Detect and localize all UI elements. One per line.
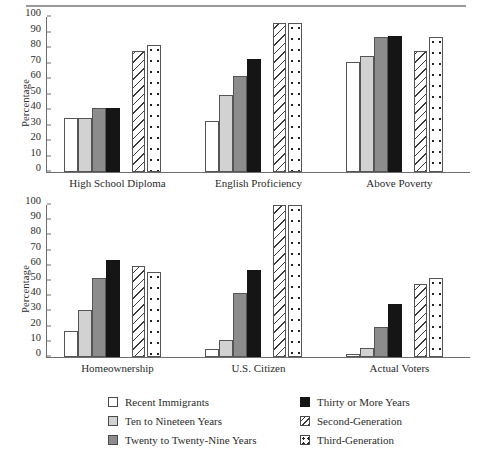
- y-axis-tick-label: 40: [31, 101, 42, 112]
- x-axis-category-label: Actual Voters: [370, 362, 430, 374]
- bar: [92, 108, 106, 172]
- y-axis-tick: 40: [7, 109, 47, 110]
- y-axis-tick-label: 80: [31, 39, 42, 50]
- legend-item[interactable]: Thirty or More Years: [300, 392, 410, 411]
- y-axis-tick-label: 90: [31, 23, 42, 34]
- y-axis-tick-label: 0: [36, 348, 41, 359]
- y-axis-tick: 0: [7, 356, 47, 357]
- y-axis-tick: 20: [7, 325, 47, 326]
- y-axis-tick-label: 50: [31, 85, 42, 96]
- bar: [346, 62, 360, 172]
- bar-group-bars: [329, 205, 470, 357]
- y-axis-tick: 10: [7, 155, 47, 156]
- bar: [106, 260, 120, 357]
- x-axis-category-label: English Proficiency: [215, 177, 302, 189]
- y-axis-tick-label: 80: [31, 226, 42, 237]
- bar: [219, 340, 233, 357]
- bar: [374, 37, 388, 172]
- legend-item-label: Second-Generation: [317, 415, 402, 427]
- y-axis-tick: 30: [7, 124, 47, 125]
- y-axis-tick-label: 30: [31, 116, 42, 127]
- x-axis-category-label: High School Diploma: [69, 177, 166, 189]
- y-axis-tick: 10: [7, 340, 47, 341]
- bar-group: U.S. Citizen: [188, 205, 329, 357]
- y-axis-label-bottom: Percentage: [20, 265, 31, 313]
- y-axis-tick-label: 10: [31, 147, 42, 158]
- y-axis-tick: 50: [7, 280, 47, 281]
- y-axis-tick: 100: [7, 16, 47, 17]
- bar: [64, 118, 78, 172]
- y-axis-tick-label: 40: [31, 287, 42, 298]
- legend-item[interactable]: Recent Immigrants: [108, 392, 256, 411]
- legend-item-label: Recent Immigrants: [125, 396, 209, 408]
- chart-panel-top: Percentage 0102030405060708090100High Sc…: [0, 10, 482, 195]
- figure-root: Percentage 0102030405060708090100High Sc…: [0, 0, 482, 462]
- bar-group: English Proficiency: [188, 17, 329, 172]
- legend-column-right: Thirty or More YearsSecond-GenerationThi…: [300, 392, 410, 449]
- bar: [374, 327, 388, 357]
- bar: [288, 23, 302, 172]
- bar-group-bars: [188, 17, 329, 172]
- chart-panel-bottom: Percentage 0102030405060708090100Homeown…: [0, 198, 482, 380]
- bar: [388, 36, 402, 172]
- y-axis-tick: 100: [7, 204, 47, 205]
- bar: [132, 266, 146, 357]
- legend-item-label: Twenty to Twenty-Nine Years: [125, 434, 256, 446]
- y-axis-tick: 90: [7, 219, 47, 220]
- legend-item-label: Thirty or More Years: [317, 396, 410, 408]
- y-axis-tick-label: 70: [31, 54, 42, 65]
- legend-item[interactable]: Twenty to Twenty-Nine Years: [108, 430, 256, 449]
- bar-group-bars: [47, 17, 188, 172]
- top-horizontal-rule: [26, 5, 466, 7]
- y-axis-tick-label: 60: [31, 70, 42, 81]
- bar-group-bars: [188, 205, 329, 357]
- y-axis-tick-label: 30: [31, 302, 42, 313]
- x-axis-category-label: Homeownership: [81, 362, 154, 374]
- y-axis-tick-label: 20: [31, 317, 42, 328]
- swatch-recent-immigrants: [108, 397, 118, 407]
- swatch-ten-to-nineteen-years: [108, 416, 118, 426]
- bar: [414, 51, 428, 172]
- y-axis-tick-label: 100: [25, 196, 41, 207]
- y-axis-tick-label: 70: [31, 241, 42, 252]
- bar: [414, 284, 428, 357]
- y-axis-tick: 70: [7, 62, 47, 63]
- y-axis-tick: 80: [7, 47, 47, 48]
- y-axis-tick: 60: [7, 78, 47, 79]
- bar: [106, 108, 120, 172]
- bar-group-bars: [47, 205, 188, 357]
- bar: [205, 121, 219, 172]
- bar: [429, 37, 443, 172]
- y-axis-tick: 50: [7, 93, 47, 94]
- legend-item-label: Ten to Nineteen Years: [125, 415, 222, 427]
- legend-item[interactable]: Ten to Nineteen Years: [108, 411, 256, 430]
- bar: [346, 354, 360, 357]
- swatch-second-generation: [300, 416, 310, 426]
- bar: [388, 304, 402, 357]
- bar-group: High School Diploma: [47, 17, 188, 172]
- y-axis-tick: 70: [7, 249, 47, 250]
- legend-item-label: Third-Generation: [317, 434, 394, 446]
- legend-column-left: Recent ImmigrantsTen to Nineteen YearsTw…: [108, 392, 256, 449]
- swatch-third-generation: [300, 435, 310, 445]
- swatch-twenty-to-twenty-nine-years: [108, 435, 118, 445]
- bar: [288, 205, 302, 357]
- legend-item[interactable]: Second-Generation: [300, 411, 410, 430]
- y-axis-tick-label: 100: [25, 8, 41, 19]
- bar: [147, 45, 161, 172]
- x-axis-category-label: Above Poverty: [366, 177, 432, 189]
- legend-item[interactable]: Third-Generation: [300, 430, 410, 449]
- swatch-thirty-or-more-years: [300, 397, 310, 407]
- y-axis-label-top: Percentage: [20, 78, 31, 126]
- y-axis-tick-label: 90: [31, 211, 42, 222]
- y-axis-tick: 0: [7, 171, 47, 172]
- bar: [360, 56, 374, 172]
- bar: [132, 51, 146, 172]
- y-axis-tick-label: 60: [31, 256, 42, 267]
- bar: [233, 293, 247, 357]
- legend: Recent ImmigrantsTen to Nineteen YearsTw…: [0, 392, 482, 462]
- y-axis-tick-label: 50: [31, 272, 42, 283]
- y-axis-tick: 20: [7, 140, 47, 141]
- bar: [78, 118, 92, 172]
- bar-group: Above Poverty: [329, 17, 470, 172]
